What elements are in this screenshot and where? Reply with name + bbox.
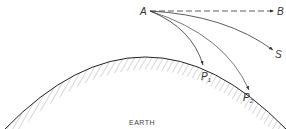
- trajectory-diagram: A B S P1 P2 EARTH: [0, 0, 286, 129]
- label-earth: EARTH: [129, 119, 155, 126]
- label-b: B: [277, 6, 284, 17]
- label-s: S: [275, 49, 282, 60]
- label-p2: P2: [243, 92, 254, 104]
- trajectory-a-to-p1: [150, 11, 203, 65]
- label-a: A: [139, 6, 147, 17]
- trajectory-a-to-s: [150, 11, 273, 50]
